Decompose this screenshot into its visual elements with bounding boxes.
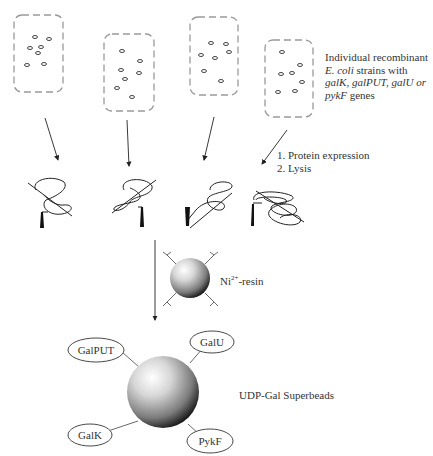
arrow-icon [204,117,214,160]
ecoli-cell-1 [14,15,63,92]
expression-arrows [45,117,287,166]
caption-text: genes [347,89,375,101]
arrow-icon [45,118,58,160]
ecoli-cell-3 [190,17,238,95]
resin-element: Ni [220,275,231,287]
ni-resin-bead [163,252,218,306]
caption-text: strains with [354,64,408,76]
caption-line-3: galK, galPUT, galU or [325,76,428,89]
enzyme-galu: GalU [190,331,234,353]
superbeads-label: UDP-Gal Superbeads [239,389,334,402]
udp-gal-superbead: GalPUT GalU GalK PykF [68,331,234,453]
protein-3 [185,182,232,228]
protein-4 [251,191,304,226]
arrow-icon [127,120,129,166]
resin-suffix: -resin [238,275,263,287]
step-protein-expression: 1. Protein expression [277,149,370,162]
caption-line-4: pykF genes [325,89,428,102]
svg-text:GalPUT: GalPUT [78,344,115,356]
ecoli-cell-4 [265,40,313,117]
caption-line-1: Individual recombinant [325,51,428,64]
caption-gene: pykF [325,89,347,101]
enzyme-galput: GalPUT [68,338,124,362]
caption-line-2: E. coli strains with [325,64,428,77]
svg-text:GalU: GalU [200,336,224,348]
protein-2 [112,180,156,227]
enzyme-pykf: PykF [187,429,233,453]
caption-species: E. coli [325,64,354,76]
enzyme-galk: GalK [68,424,112,446]
ni-resin-label: Ni2+-resin [220,272,264,287]
ecoli-cell-2 [104,34,154,111]
step-lysis: 2. Lysis [277,162,370,175]
cells-caption: Individual recombinant E. coli strains w… [325,51,428,101]
svg-text:PykF: PykF [198,435,221,447]
svg-text:GalK: GalK [78,429,102,441]
process-steps: 1. Protein expression 2. Lysis [277,149,370,174]
protein-1 [28,178,72,228]
